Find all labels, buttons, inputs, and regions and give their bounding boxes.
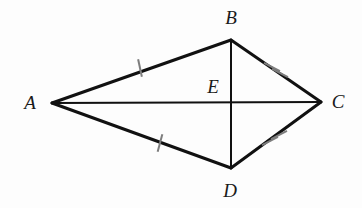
- diagonal-ac: [52, 102, 321, 103]
- vertex-label-c: C: [332, 92, 345, 111]
- geometry-canvas: [0, 0, 362, 208]
- vertex-label-d: D: [223, 181, 237, 200]
- geometry-figure: A B C D E: [0, 0, 362, 208]
- vertex-label-e: E: [207, 77, 219, 96]
- vertex-label-b: B: [225, 8, 237, 27]
- vertex-label-a: A: [24, 93, 36, 112]
